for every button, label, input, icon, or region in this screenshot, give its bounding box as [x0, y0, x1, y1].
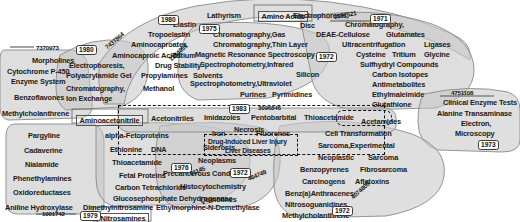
term-label: Fluorenes — [256, 130, 290, 137]
term-label: Solvents — [193, 72, 223, 79]
year-chip: 1980 — [76, 45, 97, 55]
term-label: Clinical Enzyme Tests — [443, 99, 517, 106]
year-chip: 1980 — [158, 15, 179, 25]
term-label: Histocytochemistry — [180, 183, 246, 190]
term-label: Cysteine — [356, 51, 386, 58]
term-label: Antimetabolites — [372, 81, 425, 88]
term-label: Disc — [300, 22, 315, 29]
term-label: Glutathione — [372, 101, 411, 108]
term-label: Chromatography,Gas — [213, 31, 285, 38]
term-label: Ethylmaleimide — [372, 91, 424, 98]
term-label: Thioacetamide — [304, 114, 354, 121]
term-label: Methylcholanthrene — [2, 110, 69, 117]
term-label: Ethylmorphine-N-Demethylase — [156, 204, 260, 211]
term-label: Microscopy — [455, 130, 495, 137]
term-label: Pargyline — [28, 132, 60, 139]
term-label: Cadaverine — [24, 147, 62, 154]
term-label: Chromatography, — [66, 85, 125, 92]
term-label: Fetal Proteins — [119, 172, 166, 179]
term-label: Nitrosamines — [97, 213, 149, 222]
term-label: Tritium — [392, 51, 416, 58]
term-label: Tropoelastin — [148, 31, 190, 38]
year-chip: 1972 — [332, 206, 353, 216]
term-label: Enzyme System — [11, 78, 65, 85]
citation-id-number: 4751108 — [451, 90, 473, 96]
term-label: Ultracentrifugation — [342, 41, 405, 48]
term-label: Iron — [212, 130, 225, 137]
year-chip: 1971 — [370, 14, 391, 24]
term-label: Electron, — [461, 120, 491, 127]
term-label: Methanol — [143, 85, 174, 92]
term-label: Benzoflavones — [14, 94, 64, 101]
term-label: Polyacrylamide Gel — [66, 72, 132, 79]
term-label: Glycine — [424, 51, 450, 58]
term-label: Benz(a)Anthracenes — [285, 190, 354, 197]
term-label: Spectrophotometry,Ultraviolet — [190, 80, 291, 87]
term-label: DNA — [151, 146, 167, 153]
term-label: Sarcoma,Experimental — [318, 142, 395, 149]
term-label: Cell Transformation — [325, 130, 392, 137]
term-label: Ligases — [424, 41, 450, 48]
term-label: Pyrimidines — [272, 91, 312, 98]
term-label: Lathyrism — [207, 12, 241, 19]
term-cluster-map-figure: .blob{ fill:#c9c9c9; fill-opacity:0.62; … — [0, 0, 520, 222]
year-chip: 1975 — [199, 24, 220, 34]
term-label: Acetamides — [361, 118, 401, 125]
term-label: Sarcoma — [368, 154, 398, 161]
term-label: Ethionine — [110, 146, 142, 153]
term-label: Quinolines — [200, 196, 237, 203]
term-label: Carcinogens — [302, 178, 345, 185]
term-label: Drug Stability — [155, 62, 201, 69]
term-label: Cytochrome P-450 — [7, 68, 70, 75]
term-label: alpha-Fetoproteins — [105, 132, 169, 139]
term-label: Glutamates — [386, 31, 425, 38]
term-label: Sulfhydryl Compounds — [360, 61, 438, 68]
term-label: Propylamines — [141, 72, 188, 79]
term-label: Purines — [240, 91, 266, 98]
term-label: Fibrosarcoma — [360, 166, 407, 173]
term-label: Aminoacetonitrile — [76, 115, 143, 126]
term-label: Magnetic Resonance Spectroscopy — [195, 51, 315, 58]
year-chip: 1972 — [316, 52, 337, 62]
term-label: Spectrophotometry,Infrared — [200, 61, 293, 68]
year-chip: 1979 — [80, 211, 101, 221]
term-label: Electrophoresis, — [69, 62, 125, 69]
citation-id-number: 1001742 — [42, 211, 65, 217]
term-label: Neoplasms — [198, 157, 236, 164]
term-label: Acetonitriles — [151, 115, 194, 122]
term-label: Benzopyrenes — [300, 166, 349, 173]
term-label: Pentobarbital — [251, 114, 296, 121]
term-label: Morpholines — [32, 57, 74, 64]
year-chip: 1973 — [478, 140, 499, 150]
citation-id-number: 3096846 — [258, 105, 281, 111]
term-label: DEAE-Cellulose — [316, 31, 370, 38]
year-chip: 1983 — [229, 104, 250, 114]
term-label: Oxidoreductases — [13, 189, 71, 196]
term-label: Chromatography,Thin Layer — [213, 41, 308, 48]
term-label: Phenethylamines — [13, 175, 72, 182]
term-label: Imidazoles — [204, 114, 240, 121]
term-label: Siderosis — [203, 144, 235, 151]
term-label: Nialamide — [25, 161, 59, 168]
term-label: Thioacetamide — [112, 159, 162, 166]
term-label: Neoplastic — [318, 154, 354, 161]
term-label: Alanine Transaminase — [437, 110, 512, 117]
term-label: Ion Exchange — [66, 95, 112, 102]
term-label: Carbon Isotopes — [372, 71, 428, 78]
term-label: Silicon — [296, 71, 319, 78]
term-label: Carbon Tetrachloride — [115, 184, 186, 191]
citation-id-number: 7370973 — [36, 45, 59, 51]
